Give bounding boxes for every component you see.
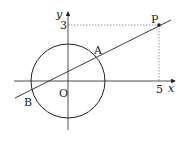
x-axis-label: x — [168, 82, 175, 95]
tick-y-3: 3 — [60, 19, 67, 32]
point-p-label: P — [151, 13, 159, 26]
coordinate-diagram: y x O 5 3 P A B — [0, 0, 183, 144]
point-a-label: A — [93, 44, 103, 57]
diagram-canvas: y x O 5 3 P A B — [0, 0, 183, 144]
tick-x-5: 5 — [156, 83, 163, 96]
origin-label: O — [59, 87, 68, 100]
point-b-label: B — [24, 96, 32, 109]
